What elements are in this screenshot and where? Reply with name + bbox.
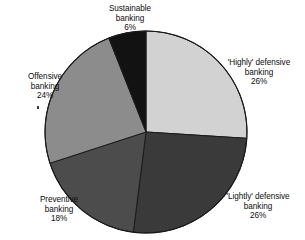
slice-label-line-1: Offensive — [6, 72, 84, 82]
slice-label-preventive-banking: Preventive banking 18% — [18, 195, 100, 224]
slice-label-line-2: banking — [6, 82, 84, 92]
slice-label-sustainable-banking: Sustainable banking 6% — [86, 4, 174, 33]
slice-label-value: 6% — [86, 23, 174, 33]
slice-label-line-2: banking — [86, 14, 174, 24]
slice-label-offensive-banking: Offensive banking 24% — [6, 72, 84, 101]
slice-label-line-1: 'Highly' defensive — [214, 58, 304, 68]
slice-label-lightly-defensive-banking: 'Lightly' defensive banking 26% — [212, 192, 304, 221]
slice-label-line-1: Preventive — [18, 195, 100, 205]
slice-label-line-2: banking — [18, 205, 100, 215]
slice-label-line-1: Sustainable — [86, 4, 174, 14]
pie-chart-figure: Sustainable banking 6% 'Highly' defensiv… — [0, 0, 305, 240]
slice-label-line-2: banking — [212, 202, 304, 212]
slice-label-value: 18% — [18, 214, 100, 224]
scan-artifact-mark — [37, 106, 39, 109]
slice-label-value: 26% — [214, 77, 304, 87]
slice-label-line-2: banking — [214, 68, 304, 78]
slice-label-value: 24% — [6, 91, 84, 101]
slice-label-line-1: 'Lightly' defensive — [212, 192, 304, 202]
slice-label-value: 26% — [212, 211, 304, 221]
slice-label-highly-defensive-banking: 'Highly' defensive banking 26% — [214, 58, 304, 87]
